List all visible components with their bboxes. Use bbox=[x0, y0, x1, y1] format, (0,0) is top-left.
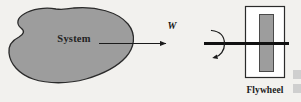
figure-canvas: System W Flywheel bbox=[0, 0, 301, 102]
flywheel-label: Flywheel bbox=[233, 86, 297, 96]
work-arrow-label: W bbox=[160, 21, 184, 31]
system-label: System bbox=[42, 34, 106, 45]
scan-artifact-block-top bbox=[293, 70, 301, 79]
scan-artifact-block-bottom bbox=[293, 84, 301, 93]
system-boundary-blob bbox=[9, 8, 134, 83]
